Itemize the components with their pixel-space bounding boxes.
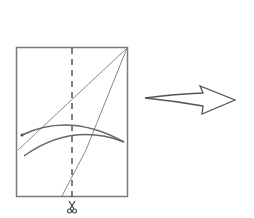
arc-start-dot (20, 133, 23, 136)
folding-diagram (0, 0, 254, 218)
diagonal-line-steep-lower (62, 150, 86, 196)
scissors-icon (68, 201, 77, 213)
lower-arc (24, 135, 124, 156)
arrow-right-icon (145, 86, 235, 114)
upper-arc (22, 125, 124, 142)
